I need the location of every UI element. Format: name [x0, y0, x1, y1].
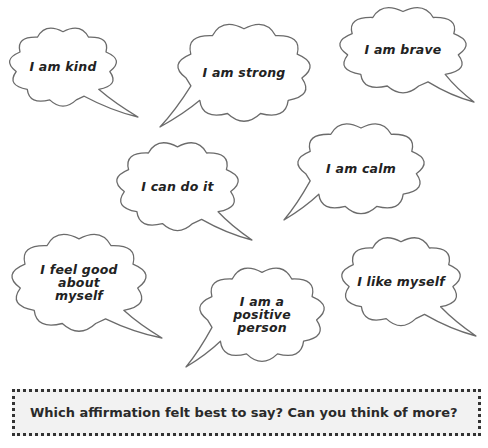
affirmation-text: I am a positive person [198, 262, 326, 366]
affirmation-text: I am brave [338, 2, 468, 97]
affirmations-worksheet: I am kind I am strong I am brave I can d… [0, 0, 488, 448]
reflection-prompt-text: Which affirmation felt best to say? Can … [30, 405, 458, 420]
affirmation-text: I am strong [176, 18, 312, 126]
affirmation-text: I like myself [340, 232, 462, 330]
affirmation-text: I feel good about myself [10, 228, 148, 336]
affirmation-text: I can do it [115, 137, 240, 235]
affirmation-text: I am kind [8, 23, 118, 110]
reflection-prompt-box: Which affirmation felt best to say? Can … [12, 389, 481, 436]
affirmation-text: I am calm [296, 118, 426, 218]
